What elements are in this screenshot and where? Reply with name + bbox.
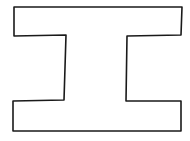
drawing-canvas xyxy=(0,0,190,141)
letter-i-drawing xyxy=(0,0,190,141)
letter-i-outline xyxy=(13,7,182,131)
